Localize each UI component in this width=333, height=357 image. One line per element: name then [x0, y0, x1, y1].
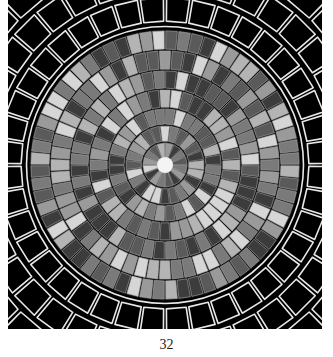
mosaic-figure — [8, 0, 322, 329]
page-number: 32 — [0, 337, 333, 353]
mosaic-svg — [8, 0, 322, 329]
